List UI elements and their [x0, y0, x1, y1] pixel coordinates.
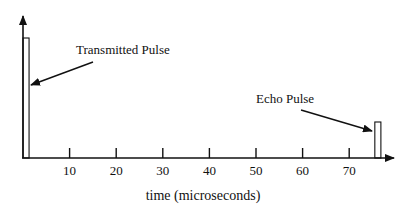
transmitted-pulse-label: Transmitted Pulse [76, 42, 170, 57]
x-ticks [70, 148, 350, 158]
transmitted-pulse [23, 38, 29, 158]
echo-pulse-arrow [301, 110, 372, 131]
transmitted-pulse-arrow [31, 62, 93, 85]
x-tick-label: 30 [156, 163, 169, 178]
x-tick-label: 10 [63, 163, 76, 178]
x-tick-label: 60 [296, 163, 309, 178]
x-tick-label: 20 [110, 163, 123, 178]
pulse-echo-diagram: 10203040506070 Transmitted Pulse Echo Pu… [0, 0, 407, 217]
x-tick-labels: 10203040506070 [63, 163, 356, 178]
axes [22, 16, 394, 158]
x-axis-label: time (microseconds) [146, 188, 261, 204]
x-tick-label: 40 [203, 163, 216, 178]
annotations: Transmitted Pulse Echo Pulse [31, 42, 372, 131]
echo-pulse [375, 122, 381, 158]
x-tick-label: 50 [250, 163, 263, 178]
x-tick-label: 70 [343, 163, 356, 178]
echo-pulse-label: Echo Pulse [256, 91, 314, 106]
